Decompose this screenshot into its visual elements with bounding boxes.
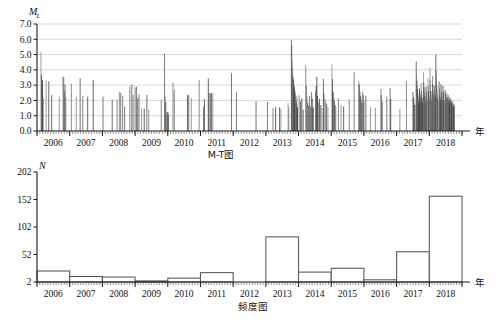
figure-canvas: 0.01.02.03.04.05.06.07.02006200720082009… bbox=[0, 0, 497, 325]
x-tick-label-top: 2008 bbox=[109, 138, 128, 148]
x-tick-label-top: 2015 bbox=[338, 138, 357, 148]
seismicity-figure: 0.01.02.03.04.05.06.07.02006200720082009… bbox=[0, 0, 497, 325]
y-tick-label-bottom: 52 bbox=[22, 250, 32, 260]
x-tick-label-bottom: 2016 bbox=[371, 289, 390, 299]
y-axis-title-bottom: N bbox=[38, 160, 47, 171]
panel-caption-top: M-T图 bbox=[208, 149, 235, 160]
y-tick-label-bottom: 2 bbox=[27, 277, 32, 287]
y-tick-label-top: 4.0 bbox=[20, 65, 32, 75]
panel-caption-bottom: 频度图 bbox=[238, 301, 268, 312]
histogram-bar bbox=[102, 277, 135, 282]
histogram-bar bbox=[299, 272, 332, 282]
x-tick-label-bottom: 2013 bbox=[273, 289, 292, 299]
y-tick-label-bottom: 152 bbox=[17, 195, 32, 205]
x-tick-label-top: 2016 bbox=[371, 138, 390, 148]
histogram-bar bbox=[37, 271, 70, 282]
y-tick-label-bottom: 102 bbox=[17, 222, 32, 232]
y-tick-label-top: 5.0 bbox=[20, 50, 32, 60]
x-axis-unit-bottom: 年 bbox=[475, 277, 485, 288]
histogram-bar bbox=[168, 278, 201, 282]
x-tick-label-bottom: 2010 bbox=[175, 289, 194, 299]
histogram-bar bbox=[70, 277, 103, 283]
x-tick-label-bottom: 2008 bbox=[109, 289, 128, 299]
x-tick-label-top: 2018 bbox=[436, 138, 455, 148]
x-tick-label-bottom: 2006 bbox=[44, 289, 63, 299]
x-tick-label-top: 2006 bbox=[44, 138, 63, 148]
y-tick-label-bottom: 202 bbox=[17, 167, 32, 177]
histogram-bar bbox=[397, 252, 430, 282]
x-tick-label-bottom: 2017 bbox=[403, 289, 422, 299]
x-tick-label-top: 2012 bbox=[240, 138, 259, 148]
x-tick-label-bottom: 2009 bbox=[142, 289, 161, 299]
histogram-bar bbox=[200, 273, 233, 282]
x-tick-label-bottom: 2014 bbox=[305, 289, 324, 299]
y-tick-label-top: 0.0 bbox=[20, 126, 32, 136]
histogram-bars bbox=[37, 196, 462, 282]
x-tick-label-top: 2007 bbox=[77, 138, 96, 148]
x-tick-label-bottom: 2015 bbox=[338, 289, 357, 299]
x-tick-label-bottom: 2018 bbox=[436, 289, 455, 299]
histogram-bar bbox=[429, 196, 462, 282]
y-tick-label-top: 7.0 bbox=[20, 19, 32, 29]
y-axis-title-subscript-top: L bbox=[36, 12, 41, 19]
y-tick-label-top: 1.0 bbox=[20, 111, 32, 121]
x-tick-label-top: 2017 bbox=[403, 138, 422, 148]
x-tick-label-top: 2009 bbox=[142, 138, 161, 148]
x-tick-label-top: 2010 bbox=[175, 138, 194, 148]
magnitude-time-chart: 0.01.02.03.04.05.06.07.02006200720082009… bbox=[20, 6, 485, 160]
x-tick-label-top: 2011 bbox=[207, 138, 226, 148]
x-tick-label-top: 2014 bbox=[305, 138, 324, 148]
x-tick-label-bottom: 2007 bbox=[77, 289, 96, 299]
histogram-bar bbox=[331, 268, 364, 282]
x-tick-label-bottom: 2011 bbox=[207, 289, 226, 299]
x-tick-label-bottom: 2012 bbox=[240, 289, 259, 299]
histogram-bar bbox=[266, 237, 299, 282]
y-tick-label-top: 2.0 bbox=[20, 96, 32, 106]
x-tick-label-top: 2013 bbox=[273, 138, 292, 148]
y-tick-label-top: 3.0 bbox=[20, 80, 32, 90]
x-axis-unit-top: 年 bbox=[475, 126, 485, 137]
event-stems bbox=[41, 40, 455, 131]
frequency-histogram-chart: 2521021522022006200720082009201020112012… bbox=[17, 160, 485, 312]
y-tick-label-top: 6.0 bbox=[20, 35, 32, 45]
